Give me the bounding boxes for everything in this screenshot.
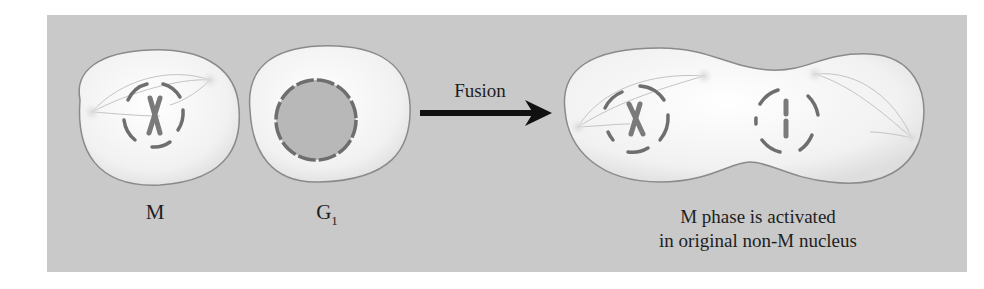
fused-cell xyxy=(564,48,923,183)
result-caption: M phase is activated in original non-M n… xyxy=(590,205,926,253)
centrosome-icon xyxy=(201,71,219,89)
right-arrow-icon xyxy=(420,100,552,126)
result-caption-line1: M phase is activated xyxy=(590,205,926,229)
centrosome-icon xyxy=(695,67,713,85)
g1-cell-label: G1 xyxy=(302,200,352,229)
g1-phase-cell xyxy=(250,46,411,182)
centrosome-icon xyxy=(806,65,824,83)
m-phase-cell xyxy=(79,50,239,185)
fusion-label: Fusion xyxy=(440,80,520,102)
result-caption-line2: in original non-M nucleus xyxy=(590,229,926,253)
centrosome-icon xyxy=(83,103,101,121)
m-cell-label: M xyxy=(135,200,175,225)
centrosome-icon xyxy=(903,129,921,147)
centrosome-icon xyxy=(569,118,587,136)
